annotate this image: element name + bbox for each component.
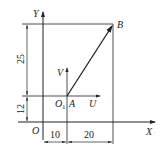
dim-value-lower: 12 xyxy=(15,104,26,114)
dim-value-upper: 25 xyxy=(15,54,26,64)
coordinate-diagram: Y X O B A V U O 1 25 12 10 20 xyxy=(0,0,163,150)
v-axis-label: V xyxy=(57,67,65,78)
point-a-label: A xyxy=(68,98,76,109)
x-axis-label: X xyxy=(145,126,153,137)
origin-label: O xyxy=(32,125,39,136)
point-b-label: B xyxy=(117,19,123,30)
dim-value-left: 10 xyxy=(50,129,60,140)
local-origin-subscript: 1 xyxy=(62,103,66,111)
ab-vector xyxy=(67,26,112,96)
u-axis-label: U xyxy=(89,98,97,109)
dim-value-right: 20 xyxy=(84,129,94,140)
diagram-canvas: Y X O B A V U O 1 25 12 10 20 xyxy=(0,0,163,150)
y-axis-label: Y xyxy=(33,8,40,19)
